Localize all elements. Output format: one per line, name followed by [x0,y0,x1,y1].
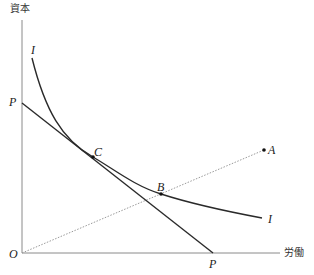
isocost-x-intercept-label: P [209,258,216,270]
y-axis-label: 資本 [10,4,30,14]
point-c-label: C [94,146,102,158]
isocost-line [22,103,213,253]
ray-o-a [22,150,264,253]
point-a-label: A [268,144,275,156]
x-axis-label: 労働 [284,248,304,258]
isoquant-end-label: I [268,213,272,225]
point-a [262,148,266,152]
isoquant-start-label: I [31,44,35,56]
diagram-canvas [0,0,314,275]
origin-label: O [9,248,18,260]
isocost-y-intercept-label: P [9,96,16,108]
point-b-label: B [157,181,164,193]
